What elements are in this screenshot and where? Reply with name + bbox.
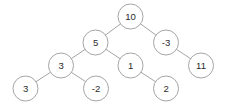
tree-node: -2 bbox=[84, 76, 109, 101]
tree-node: 3 bbox=[13, 76, 38, 101]
tree-node: 11 bbox=[189, 53, 214, 78]
tree-node-label: -2 bbox=[92, 83, 100, 94]
tree-nodes-group: 105-331113-22 bbox=[13, 4, 214, 101]
tree-node-label: 5 bbox=[93, 37, 98, 48]
tree-node-label: 10 bbox=[125, 11, 135, 22]
tree-node: -3 bbox=[154, 30, 179, 55]
tree-node-label: 11 bbox=[196, 60, 206, 71]
binary-tree-canvas: 105-331113-22 bbox=[0, 0, 225, 111]
tree-edge bbox=[176, 49, 190, 58]
tree-node: 3 bbox=[49, 53, 74, 78]
tree-node-label: 3 bbox=[58, 60, 63, 71]
tree-edge bbox=[71, 49, 85, 58]
tree-edge bbox=[71, 72, 85, 81]
tree-node-label: 2 bbox=[163, 83, 168, 94]
tree-node: 5 bbox=[83, 30, 108, 55]
tree-node: 10 bbox=[118, 4, 143, 29]
tree-node: 2 bbox=[154, 76, 179, 101]
tree-edge bbox=[141, 24, 156, 35]
binary-tree-figure: 105-331113-22 bbox=[0, 0, 225, 111]
tree-node-label: 3 bbox=[23, 83, 28, 94]
tree-edge bbox=[36, 72, 51, 81]
tree-edge bbox=[106, 49, 120, 58]
tree-edge bbox=[141, 72, 156, 81]
tree-edge bbox=[106, 24, 121, 35]
tree-node-label: -3 bbox=[162, 37, 170, 48]
tree-node-label: 1 bbox=[128, 60, 133, 71]
tree-node: 1 bbox=[118, 53, 143, 78]
